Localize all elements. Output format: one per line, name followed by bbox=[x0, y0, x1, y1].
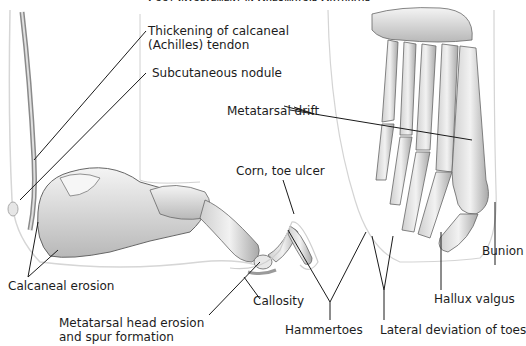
label-lateral-deviation: Lateral deviation of toes bbox=[380, 324, 526, 337]
label-thickening-line2: (Achilles) tendon bbox=[148, 39, 249, 52]
label-thickening-line1: Thickening of calcaneal bbox=[148, 25, 289, 38]
label-hammertoes: Hammertoes bbox=[285, 324, 363, 337]
label-subcutaneous-nodule: Subcutaneous nodule bbox=[152, 67, 282, 80]
dorsal-foot-view bbox=[328, 8, 496, 262]
label-metatarsal-head-line2: and spur formation bbox=[59, 331, 174, 344]
label-metatarsal-drift: Metatarsal drift bbox=[227, 105, 319, 118]
label-hallux-valgus: Hallux valgus bbox=[434, 293, 515, 306]
label-calcaneal-erosion: Calcaneal erosion bbox=[8, 280, 114, 293]
label-metatarsal-head-line1: Metatarsal head erosion bbox=[59, 317, 204, 330]
label-bunion: Bunion bbox=[482, 245, 524, 258]
label-callosity: Callosity bbox=[253, 295, 304, 308]
label-corn-toe-ulcer: Corn, toe ulcer bbox=[236, 165, 325, 178]
